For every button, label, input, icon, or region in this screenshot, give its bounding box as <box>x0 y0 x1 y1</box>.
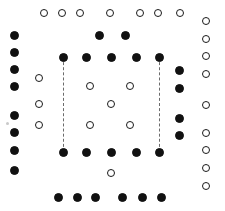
open-dot-left-inner-column <box>35 74 43 82</box>
filled-dot-inner-bottom-row <box>59 148 68 157</box>
dot-pattern-figure <box>0 0 225 211</box>
open-dot-core-quincunx <box>86 121 94 129</box>
filled-dot-inner-top-row <box>155 53 164 62</box>
open-dot-core-quincunx <box>126 121 134 129</box>
open-dot-right-outer-column <box>202 35 210 43</box>
filled-dot-inner-top-row <box>107 53 116 62</box>
filled-dot-left-outer-column <box>10 166 19 175</box>
filled-dot-bottom-outer-row <box>157 193 166 202</box>
filled-dot-inner-bottom-row <box>155 148 164 157</box>
filled-dot-bottom-outer-row <box>118 193 127 202</box>
open-dot-right-outer-column <box>202 129 210 137</box>
open-dot-core-quincunx <box>126 82 134 90</box>
open-dot-top-outer-row <box>136 9 144 17</box>
right-dashed-line <box>159 57 160 152</box>
filled-dot-left-outer-column <box>10 82 19 91</box>
filled-dot-right-inner-column <box>175 131 184 140</box>
filled-dot-left-outer-column <box>10 65 19 74</box>
open-dot-right-outer-column <box>202 164 210 172</box>
open-dot-right-outer-column <box>202 70 210 78</box>
filled-dot-bottom-outer-row <box>54 193 63 202</box>
filled-dot-inner-bottom-row <box>107 148 116 157</box>
open-dot-left-inner-column <box>35 100 43 108</box>
filled-dot-left-outer-column <box>10 111 19 120</box>
open-dot-right-outer-column <box>202 101 210 109</box>
open-dot-core-quincunx <box>107 100 115 108</box>
filled-dot-right-inner-column <box>175 84 184 93</box>
open-dot-left-inner-column <box>35 121 43 129</box>
filled-dot-inner-bottom-row <box>82 148 91 157</box>
filled-dot-bottom-outer-row <box>73 193 82 202</box>
filled-dot-left-outer-column <box>10 146 19 155</box>
filled-dot-right-inner-column <box>175 114 184 123</box>
filled-dot-inner-top-row <box>82 53 91 62</box>
filled-dot-left-outer-column <box>10 48 19 57</box>
open-dot-top-outer-row <box>40 9 48 17</box>
filled-dot-right-inner-column <box>175 66 184 75</box>
open-dot-top-outer-row <box>176 9 184 17</box>
filled-dot-inner-bottom-row <box>132 148 141 157</box>
filled-dot-upper-middle-pair <box>95 31 104 40</box>
open-dot-below-inner-square <box>107 169 115 177</box>
open-dot-top-outer-row <box>154 9 162 17</box>
left-dashed-line <box>63 57 64 152</box>
filled-dot-inner-top-row <box>59 53 68 62</box>
open-dot-top-outer-row <box>58 9 66 17</box>
filled-dot-bottom-outer-row <box>91 193 100 202</box>
filled-dot-left-outer-column <box>10 128 19 137</box>
open-dot-right-outer-column <box>202 17 210 25</box>
open-dot-core-quincunx <box>86 82 94 90</box>
open-dot-right-outer-column <box>202 52 210 60</box>
filled-dot-bottom-outer-row <box>138 193 147 202</box>
paper-speck <box>6 122 9 125</box>
open-dot-top-outer-row <box>76 9 84 17</box>
filled-dot-upper-middle-pair <box>121 31 130 40</box>
open-dot-right-outer-column <box>202 182 210 190</box>
open-dot-top-outer-row <box>106 9 114 17</box>
open-dot-right-outer-column <box>202 146 210 154</box>
filled-dot-left-outer-column <box>10 31 19 40</box>
filled-dot-inner-top-row <box>132 53 141 62</box>
